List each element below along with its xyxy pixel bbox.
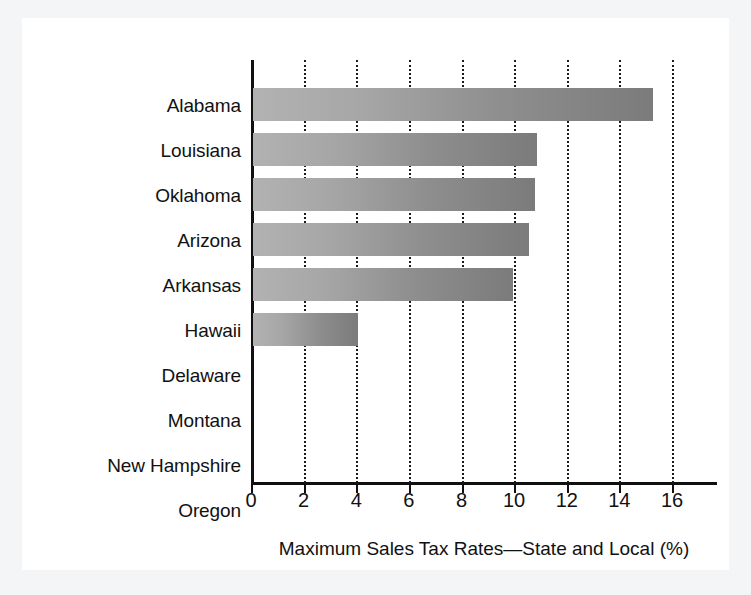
x-tick-label: 6	[389, 490, 429, 510]
x-tick-label: 14	[599, 490, 639, 510]
plot-area	[251, 60, 696, 483]
category-label: New Hampshire	[107, 456, 241, 475]
x-tick-label: 16	[652, 490, 692, 510]
x-tick-label: 2	[284, 490, 324, 510]
category-label: Oklahoma	[155, 186, 241, 205]
gridline	[619, 60, 621, 483]
category-label: Delaware	[162, 366, 241, 385]
category-label: Louisiana	[161, 141, 241, 160]
bar	[253, 223, 529, 256]
bar	[253, 133, 537, 166]
gridline	[514, 60, 516, 483]
bar	[253, 313, 358, 346]
figure-card: AlabamaLouisianaOklahomaArizonaArkansasH…	[22, 18, 729, 570]
x-axis-line	[251, 482, 717, 485]
x-tick-label: 10	[494, 490, 534, 510]
category-label: Montana	[168, 411, 241, 430]
x-tick-label: 0	[231, 490, 271, 510]
bar	[253, 178, 535, 211]
category-label: Arizona	[177, 231, 241, 250]
gridline	[567, 60, 569, 483]
x-tick-label: 8	[442, 490, 482, 510]
page-canvas: AlabamaLouisianaOklahomaArizonaArkansasH…	[0, 0, 751, 595]
category-label: Arkansas	[163, 276, 241, 295]
category-label: Hawaii	[185, 321, 241, 340]
bar	[253, 268, 513, 301]
bar-chart: AlabamaLouisianaOklahomaArizonaArkansasH…	[22, 18, 729, 570]
category-label: Alabama	[167, 96, 241, 115]
x-tick-label: 4	[336, 490, 376, 510]
x-axis-title: Maximum Sales Tax Rates—State and Local …	[251, 538, 717, 560]
gridline	[672, 60, 674, 483]
x-tick-label: 12	[547, 490, 587, 510]
bar	[253, 88, 653, 121]
